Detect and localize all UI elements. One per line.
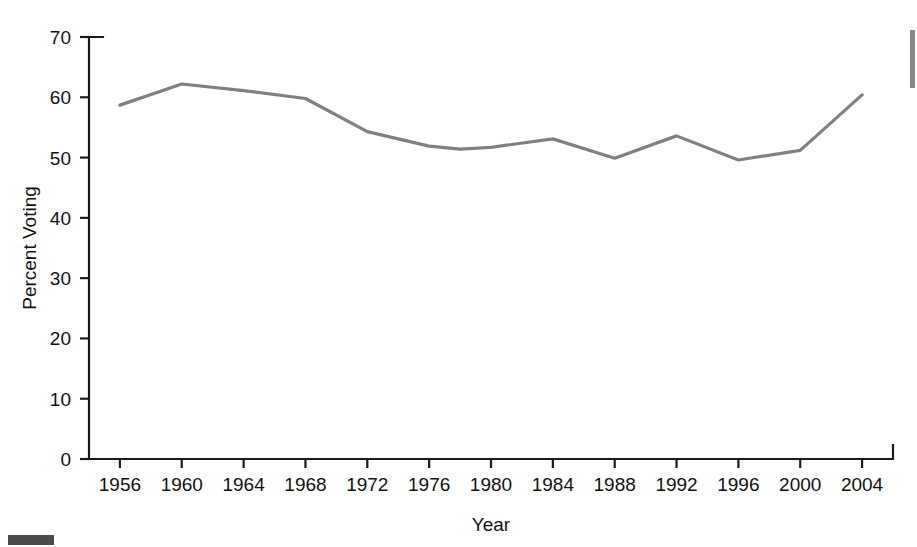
x-tick-label: 2000 [779,474,821,495]
y-tick-label: 0 [60,449,71,470]
x-tick-label: 1964 [222,474,265,495]
data-series-group [120,84,862,160]
x-tick-label: 1968 [284,474,326,495]
y-tick-label: 30 [50,268,71,289]
x-tick-label: 1984 [532,474,575,495]
data-line-percent-voting [120,84,862,160]
x-tick-label: 1996 [717,474,759,495]
chart-container: 010203040506070 195619601964196819721976… [0,0,917,547]
x-tick-label: 1992 [655,474,697,495]
scan-artifact-right-edge [910,30,915,88]
x-axis-title: Year [472,514,511,535]
x-axis-tick-labels: 1956196019641968197219761980198419881992… [99,474,884,495]
y-tick-label: 70 [50,27,71,48]
x-axis-line [89,445,893,459]
y-tick-label: 60 [50,87,71,108]
x-axis-ticks [120,459,862,468]
scan-artifact-bottom-left [8,535,54,545]
x-tick-label: 1976 [408,474,450,495]
y-tick-label: 50 [50,148,71,169]
y-axis-line [89,37,103,459]
x-tick-label: 1972 [346,474,388,495]
x-axis: 1956196019641968197219761980198419881992… [89,445,893,495]
y-axis-tick-labels: 010203040506070 [50,27,71,470]
x-tick-label: 1980 [470,474,512,495]
x-tick-label: 1988 [594,474,636,495]
y-tick-label: 20 [50,328,71,349]
x-tick-label: 2004 [841,474,884,495]
y-axis-title: Percent Voting [19,186,40,310]
x-tick-label: 1956 [99,474,141,495]
line-chart: 010203040506070 195619601964196819721976… [0,0,917,547]
y-axis-ticks [80,37,89,459]
y-axis: 010203040506070 [50,27,103,470]
y-tick-label: 10 [50,389,71,410]
x-tick-label: 1960 [161,474,203,495]
y-tick-label: 40 [50,208,71,229]
